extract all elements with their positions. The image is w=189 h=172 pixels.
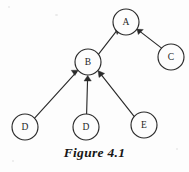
edge-c-to-a-line [139, 30, 162, 48]
edge-d2-to-b [84, 75, 91, 114]
node-b[interactable]: B [75, 49, 101, 75]
scan-speck [55, 14, 58, 16]
node-a-label: A [122, 17, 129, 27]
edge-b-to-a-line [98, 31, 116, 55]
node-d-middle-label: D [82, 122, 89, 132]
node-a[interactable]: A [113, 9, 139, 35]
node-d-left[interactable]: D [12, 114, 38, 140]
edge-e-to-b-line [100, 73, 135, 117]
node-e[interactable]: E [131, 112, 157, 138]
edge-d2-to-b-line [87, 78, 88, 114]
scan-speck [176, 148, 178, 150]
edge-d1-to-b-arrowhead [71, 70, 78, 75]
node-d-left-label: D [21, 122, 28, 132]
scan-speck [12, 160, 14, 162]
node-c-label: C [168, 52, 175, 62]
edge-e-to-b-arrowhead [98, 71, 105, 78]
edge-d2-to-b-arrowhead [84, 75, 91, 81]
scan-speck [8, 6, 10, 8]
edge-e-to-b [98, 71, 134, 117]
edge-d1-to-b [35, 70, 79, 118]
edge-c-to-a [137, 29, 162, 48]
node-group: A C B D D E [12, 9, 184, 140]
node-e-label: E [141, 120, 147, 130]
node-c[interactable]: C [158, 44, 184, 70]
figure-container: A C B D D E Figure 4. [0, 0, 189, 172]
node-d-middle[interactable]: D [73, 114, 99, 140]
node-b-label: B [85, 57, 92, 67]
figure-caption: Figure 4.1 [0, 145, 189, 161]
edge-group [35, 28, 162, 119]
edge-d1-to-b-line [35, 72, 77, 118]
